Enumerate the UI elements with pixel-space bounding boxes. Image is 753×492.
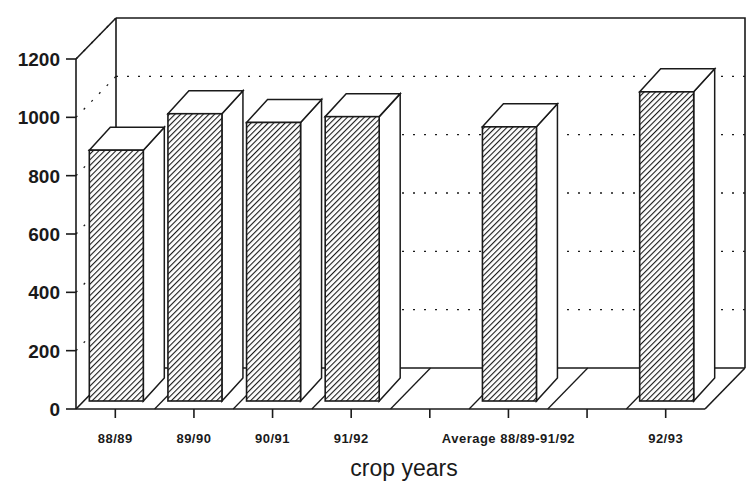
y-tick-label: 0 xyxy=(49,399,60,420)
bar xyxy=(247,99,322,401)
y-tick-label: 400 xyxy=(28,282,60,303)
bar xyxy=(89,127,164,401)
bar-chart-3d: 020040060080010001200 88/8989/9090/9191/… xyxy=(0,0,753,492)
x-tick-label: 88/89 xyxy=(98,431,133,446)
y-tick-label: 200 xyxy=(28,341,60,362)
x-axis-label: crop years xyxy=(350,455,457,481)
x-tick-label: 92/93 xyxy=(648,431,683,446)
y-axis: 020040060080010001200 xyxy=(18,49,76,420)
bar xyxy=(640,69,715,401)
y-tick-label: 800 xyxy=(28,166,60,187)
x-tick-label: 89/90 xyxy=(176,431,211,446)
x-tick-label: 90/91 xyxy=(255,431,290,446)
x-tick-label: 91/92 xyxy=(334,431,369,446)
y-tick-label: 1000 xyxy=(18,107,60,128)
bar xyxy=(325,94,400,401)
bar xyxy=(482,104,557,401)
x-tick-label: Average 88/89-91/92 xyxy=(442,431,575,446)
bars xyxy=(89,69,714,401)
x-axis: 88/8989/9090/9191/92Average 88/89-91/929… xyxy=(98,409,683,446)
y-tick-label: 1200 xyxy=(18,49,60,70)
y-tick-label: 600 xyxy=(28,224,60,245)
bar xyxy=(168,91,243,401)
